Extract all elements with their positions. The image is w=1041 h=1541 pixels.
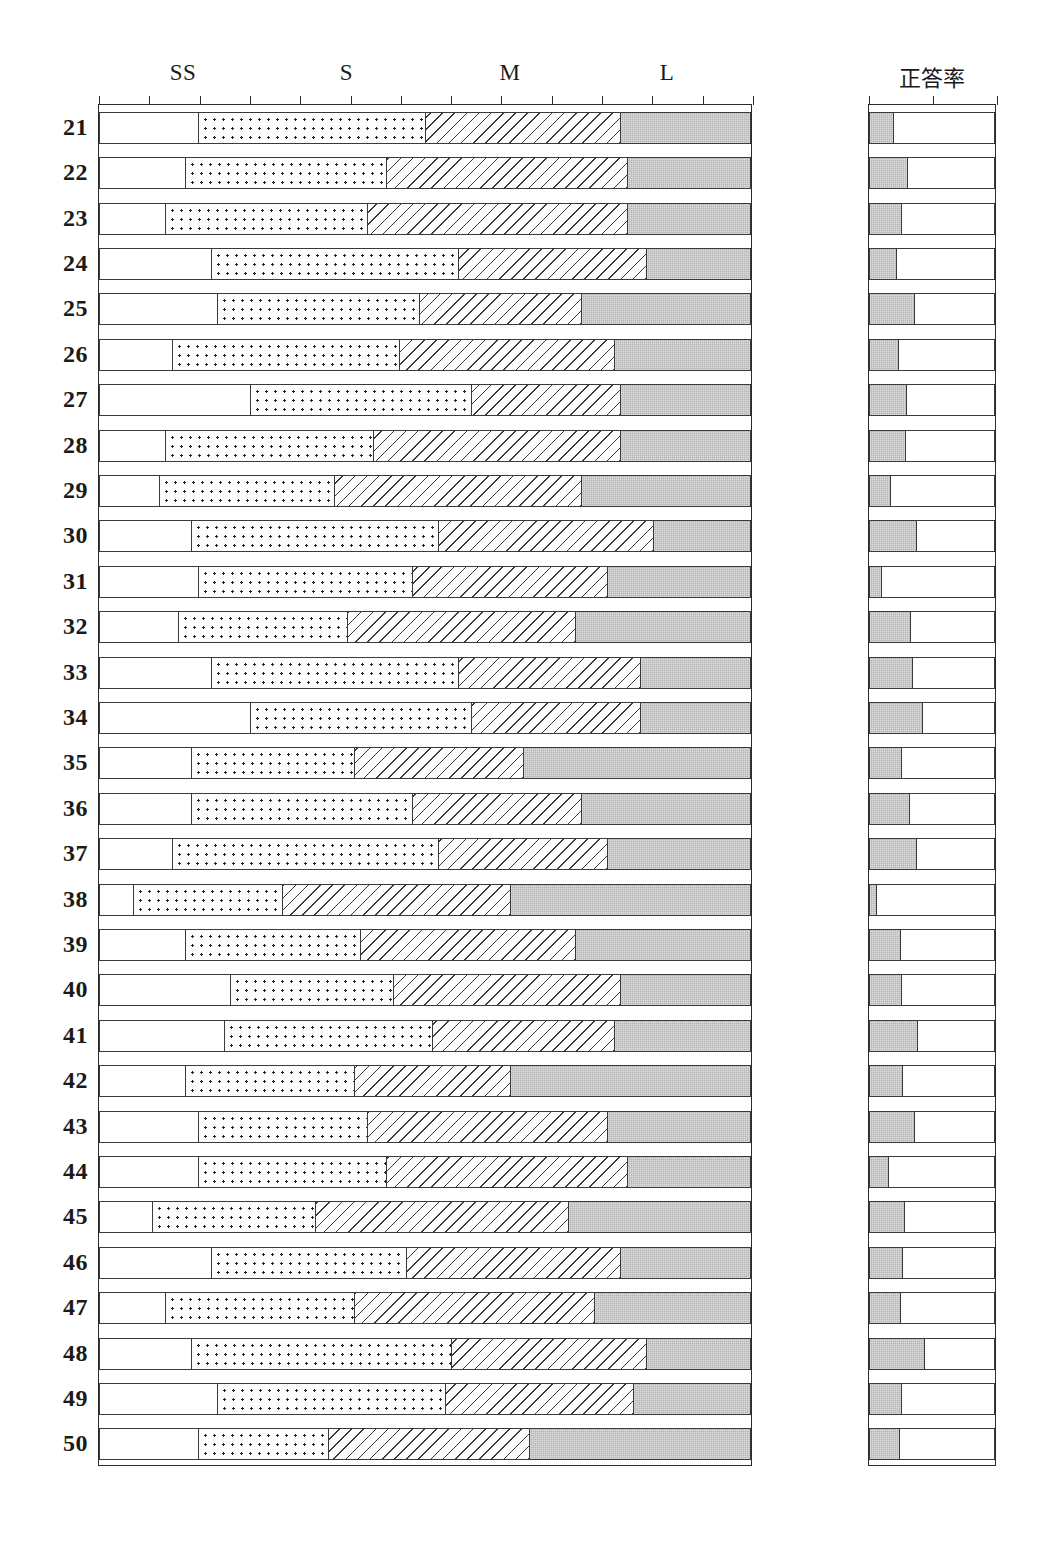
rate-bar-fill <box>870 158 908 188</box>
rate-row <box>869 566 995 598</box>
rate-row <box>869 611 995 643</box>
bar-segment-ss <box>100 113 198 143</box>
rate-row <box>869 112 995 144</box>
row-label-46: 46 <box>0 1249 88 1276</box>
bar-segment-l <box>575 930 751 960</box>
bar-segment-s <box>211 658 458 688</box>
bar-segment-ss <box>100 340 172 370</box>
bar-segment-l <box>620 431 750 461</box>
rate-bar-fill <box>870 567 882 597</box>
bar-segment-m <box>412 567 607 597</box>
bar-segment-m <box>354 1293 595 1323</box>
rate-row <box>869 1201 995 1233</box>
table-row <box>99 974 751 1006</box>
rate-bar-fill <box>870 1339 925 1369</box>
table-row <box>99 566 751 598</box>
rate-row <box>869 520 995 552</box>
row-label-47: 47 <box>0 1294 88 1321</box>
bar-segment-m <box>354 748 523 778</box>
bar-segment-s <box>198 1157 387 1187</box>
rate-row <box>869 929 995 961</box>
rate-bar-fill <box>870 1112 915 1142</box>
rate-bar <box>869 339 995 371</box>
axis-tick <box>451 96 452 105</box>
bar-segment-s <box>191 521 438 551</box>
stacked-bar <box>99 1156 751 1188</box>
axis-tick <box>250 96 251 105</box>
bar-segment-m <box>399 340 614 370</box>
row-label-24: 24 <box>0 250 88 277</box>
rate-bar <box>869 1292 995 1324</box>
row-label-45: 45 <box>0 1203 88 1230</box>
row-label-34: 34 <box>0 704 88 731</box>
stacked-bar <box>99 1065 751 1097</box>
table-row <box>99 1156 751 1188</box>
bar-segment-l <box>581 294 750 324</box>
table-row <box>99 702 751 734</box>
row-label-23: 23 <box>0 205 88 232</box>
row-label-40: 40 <box>0 976 88 1003</box>
stacked-bar <box>99 1201 751 1233</box>
rate-row <box>869 793 995 825</box>
bar-segment-ss <box>100 930 185 960</box>
stacked-bar <box>99 430 751 462</box>
rate-bar-fill <box>870 1293 901 1323</box>
bar-segment-ss <box>100 1248 211 1278</box>
row-label-41: 41 <box>0 1022 88 1049</box>
rate-bar <box>869 248 995 280</box>
column-header-s: S <box>340 60 353 86</box>
stacked-bar <box>99 974 751 1006</box>
bar-segment-ss <box>100 521 191 551</box>
row-label-21: 21 <box>0 114 88 141</box>
rate-bar <box>869 1428 995 1460</box>
stacked-bar <box>99 248 751 280</box>
rate-row <box>869 1065 995 1097</box>
axis-tick <box>501 96 502 105</box>
bar-segment-s <box>198 1429 328 1459</box>
row-label-36: 36 <box>0 795 88 822</box>
bar-segment-l <box>640 658 751 688</box>
table-row <box>99 203 751 235</box>
bar-segment-s <box>191 748 354 778</box>
rate-bar-fill <box>870 1202 905 1232</box>
axis-tick <box>149 96 150 105</box>
bar-segment-s <box>250 385 471 415</box>
table-row <box>99 430 751 462</box>
table-row <box>99 657 751 689</box>
stacked-bar <box>99 1428 751 1460</box>
stacked-bar <box>99 520 751 552</box>
rate-bar <box>869 611 995 643</box>
bar-segment-l <box>607 567 750 597</box>
rate-bar <box>869 838 995 870</box>
rate-bar <box>869 974 995 1006</box>
bar-segment-l <box>575 612 751 642</box>
stacked-bar <box>99 384 751 416</box>
rate-bar-fill <box>870 658 913 688</box>
bar-segment-l <box>568 1202 750 1232</box>
bar-segment-m <box>445 1384 634 1414</box>
row-label-22: 22 <box>0 159 88 186</box>
rate-chart-panel <box>868 104 996 1466</box>
bar-segment-m <box>386 1157 627 1187</box>
bar-segment-ss <box>100 249 211 279</box>
row-label-26: 26 <box>0 341 88 368</box>
bar-segment-m <box>347 612 575 642</box>
stacked-bar <box>99 203 751 235</box>
rate-row <box>869 702 995 734</box>
rate-row <box>869 1383 995 1415</box>
rate-bar <box>869 384 995 416</box>
bar-segment-m <box>328 1429 530 1459</box>
bar-segment-s <box>172 839 439 869</box>
rate-bar-fill <box>870 249 897 279</box>
table-row <box>99 1428 751 1460</box>
rate-row <box>869 838 995 870</box>
rate-bar-fill <box>870 748 902 778</box>
bar-segment-ss <box>100 567 198 597</box>
bar-segment-s <box>217 294 419 324</box>
bar-segment-m <box>360 930 575 960</box>
axis-tick <box>602 96 603 105</box>
rate-row <box>869 430 995 462</box>
bar-segment-m <box>412 794 581 824</box>
bar-segment-l <box>581 476 750 506</box>
stacked-bar <box>99 339 751 371</box>
